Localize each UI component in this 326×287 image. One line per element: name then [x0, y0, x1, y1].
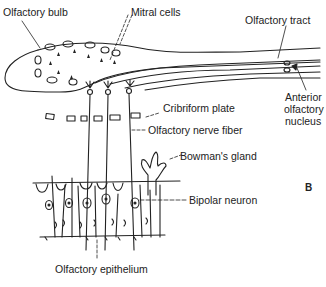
olfactory-system-diagram — [0, 0, 326, 287]
label-bowmans-gland: Bowman's gland — [180, 150, 257, 162]
label-anterior-olfactory-nucleus-line2: olfactory — [284, 103, 324, 115]
label-olfactory-nerve-fiber: Olfactory nerve fiber — [148, 124, 243, 136]
label-olfactory-bulb: Olfactory bulb — [3, 6, 68, 18]
label-bipolar-neuron: Bipolar neuron — [189, 194, 257, 206]
label-olfactory-tract: Olfactory tract — [245, 14, 310, 26]
bowmans-gland — [141, 152, 166, 195]
label-mitral-cells: Mitral cells — [131, 6, 181, 18]
olfactory-epithelium — [33, 176, 180, 240]
olfactory-bulb-shape — [5, 41, 320, 92]
cribriform-plate — [46, 113, 140, 121]
olfactory-nerve-fibers — [86, 80, 134, 250]
label-cribriform-plate: Cribriform plate — [163, 102, 235, 114]
label-anterior-olfactory-nucleus-line1: Anterior — [285, 91, 322, 103]
label-anterior-olfactory-nucleus-line3: nucleus — [285, 115, 321, 127]
panel-label: B — [305, 182, 312, 194]
label-olfactory-epithelium: Olfactory epithelium — [55, 263, 148, 275]
